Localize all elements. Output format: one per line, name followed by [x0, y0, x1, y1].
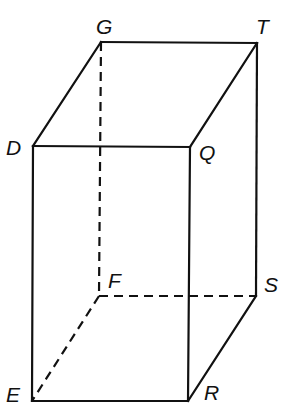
vertex-label-G: G [96, 15, 112, 38]
vertex-label-T: T [256, 15, 271, 38]
edge-RS [188, 296, 256, 401]
edge-DE [32, 146, 33, 401]
vertex-label-S: S [264, 273, 278, 296]
vertex-label-F: F [108, 269, 122, 292]
edge-DQ [33, 146, 190, 147]
edge-GD [33, 42, 101, 146]
edge-TS [256, 43, 257, 296]
vertex-label-Q: Q [199, 141, 215, 164]
edge-GT [101, 42, 257, 43]
edge-QR [188, 147, 190, 401]
vertex-label-D: D [6, 136, 21, 159]
edge-FE-hidden [32, 296, 99, 401]
prism-edges [32, 42, 257, 401]
rectangular-prism-diagram: GTDQFSER [0, 0, 295, 419]
edge-TQ [190, 43, 257, 147]
vertex-label-E: E [6, 383, 21, 406]
vertex-label-R: R [204, 381, 219, 404]
edge-GF-hidden [99, 42, 101, 296]
